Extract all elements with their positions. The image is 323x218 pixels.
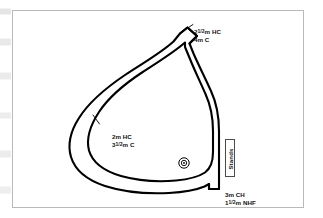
scan-edge-artifact (0, 0, 11, 218)
stands-box: Stands (225, 139, 235, 177)
inner-rail-path (88, 43, 213, 182)
label-top-chute: 21/2m HC 4m C (194, 28, 221, 44)
racecourse-diagram-page: 21/2m HC 4m C 2m HC 31/2m C 3m CH 11/2m … (0, 0, 323, 218)
label-top-chute-line1: 21/2m HC (194, 28, 221, 36)
label-bottom-chute-line2: 11/2m NHF (225, 199, 256, 207)
label-top-chute-line2: 4m C (194, 36, 221, 44)
racecourse-track-drawing (13, 11, 303, 207)
stands-label: Stands (226, 140, 236, 178)
label-left-side-line2: 31/2m C (112, 141, 134, 149)
label-left-side-line1: 2m HC (112, 133, 134, 141)
label-bottom-chute: 3m CH 11/2m NHF (225, 191, 256, 207)
top-label-leader-line (187, 25, 193, 29)
label-left-side: 2m HC 31/2m C (112, 133, 134, 149)
bottom-chute-straight (209, 184, 219, 189)
outer-rail-path (69, 28, 219, 194)
diagram-frame: 21/2m HC 4m C 2m HC 31/2m C 3m CH 11/2m … (12, 10, 304, 208)
label-bottom-chute-line1: 3m CH (225, 191, 256, 199)
winning-post-marker (179, 158, 189, 168)
